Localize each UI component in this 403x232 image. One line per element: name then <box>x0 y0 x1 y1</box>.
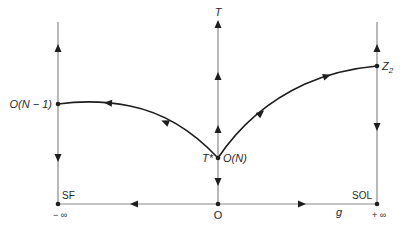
label-sol: SOL <box>352 190 372 201</box>
arrow-up-icon <box>374 44 381 52</box>
left-flow-curve <box>58 102 218 158</box>
fixed-point-o-n <box>216 156 221 161</box>
arrow-up-icon <box>215 125 222 133</box>
fixed-point-origin <box>216 202 221 207</box>
arrow-right-icon <box>298 201 306 208</box>
arrow-up-icon <box>215 20 222 28</box>
label-t-star: T* <box>202 152 214 164</box>
axis-label-g: g <box>336 206 343 218</box>
fixed-point-o-n-minus-1 <box>56 102 61 107</box>
label-origin: O <box>214 209 223 221</box>
arrow-up-icon <box>215 72 222 80</box>
arrow-left-icon <box>130 201 138 208</box>
label-o-n: O(N) <box>223 152 247 164</box>
fixed-point-sol <box>375 202 380 207</box>
arrow-down-icon <box>374 123 381 131</box>
label-sf: SF <box>62 190 75 201</box>
arrow-right-icon <box>322 71 332 80</box>
label-plus-infinity: + ∞ <box>372 210 386 220</box>
fixed-point-sf <box>56 202 61 207</box>
label-minus-infinity: − ∞ <box>53 210 67 220</box>
arrow-down-icon <box>55 154 62 162</box>
arrow-right-icon <box>256 108 267 119</box>
flow-diagram: T O(N − 1) T* O(N) Z2 SF SOL − ∞ O g + ∞ <box>0 0 403 232</box>
label-o-n-minus-1: O(N − 1) <box>10 98 53 110</box>
right-flow-curve <box>218 66 377 158</box>
arrow-up-icon <box>55 44 62 52</box>
arrow-down-icon <box>215 178 222 186</box>
label-z2: Z2 <box>381 60 394 75</box>
arrow-left-icon <box>104 99 112 106</box>
axis-label-t: T <box>215 6 223 18</box>
fixed-point-z2 <box>375 64 380 69</box>
